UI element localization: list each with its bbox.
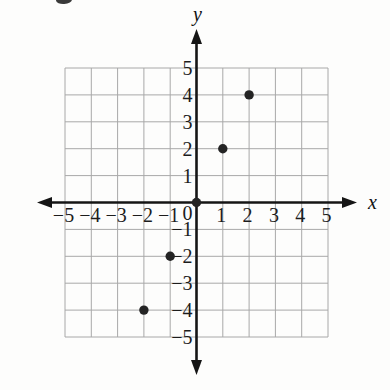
x-tick-label: 1 bbox=[216, 204, 226, 226]
y-tick-label: 1 bbox=[183, 165, 193, 187]
x-tick-label: 4 bbox=[295, 204, 305, 226]
y-tick-label: 4 bbox=[183, 84, 193, 106]
data-point bbox=[244, 90, 253, 99]
y-tick-label: −3 bbox=[171, 272, 192, 294]
x-tick-label: 5 bbox=[322, 204, 332, 226]
x-tick-label: 3 bbox=[269, 204, 279, 226]
x-axis-label: x bbox=[367, 191, 377, 213]
x-tick-label: −4 bbox=[79, 204, 100, 226]
y-tick-label: −4 bbox=[171, 299, 192, 321]
x-axis-left-arrow bbox=[37, 197, 52, 208]
y-axis-bottom-arrow bbox=[191, 360, 202, 375]
y-axis-label: y bbox=[191, 3, 202, 26]
x-tick-label: −3 bbox=[105, 204, 126, 226]
x-tick-label: −5 bbox=[53, 204, 74, 226]
coordinate-plane: xy−5−4−3−2−112345−5−4−3−2−1123450 bbox=[0, 0, 390, 390]
x-tick-label: 2 bbox=[243, 204, 253, 226]
x-tick-label: −2 bbox=[132, 204, 153, 226]
data-point bbox=[218, 144, 227, 153]
y-tick-label: 2 bbox=[183, 138, 193, 160]
y-tick-label: 5 bbox=[183, 57, 193, 79]
data-point bbox=[192, 198, 201, 207]
y-tick-label: 3 bbox=[183, 111, 193, 133]
scanned-graph-page: xy−5−4−3−2−112345−5−4−3−2−1123450 bbox=[0, 0, 390, 390]
data-point bbox=[139, 305, 148, 314]
data-point bbox=[166, 252, 175, 261]
x-axis-right-arrow bbox=[342, 197, 357, 208]
y-axis-top-arrow bbox=[191, 29, 202, 44]
origin-tick-label: 0 bbox=[183, 202, 193, 224]
y-tick-label: −5 bbox=[171, 326, 192, 348]
